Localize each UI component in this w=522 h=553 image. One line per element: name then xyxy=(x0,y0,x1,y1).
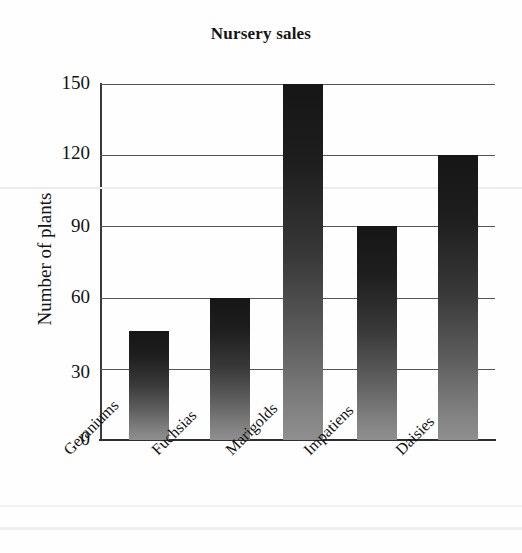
y-tick-label-30: 30 xyxy=(28,361,90,383)
chart-figure: Nursery sales Number of plants 150 120 9… xyxy=(0,0,522,553)
y-tick-label-60: 60 xyxy=(28,286,90,308)
bar-daisies[interactable] xyxy=(438,155,478,440)
bar-fuchsias[interactable] xyxy=(210,298,250,440)
scan-artifact xyxy=(0,505,522,507)
bar-marigolds[interactable] xyxy=(283,84,323,440)
bar-impatiens[interactable] xyxy=(357,226,397,440)
bar-geraniums[interactable] xyxy=(129,331,169,440)
y-tick-label-150: 150 xyxy=(28,72,90,94)
plot-area xyxy=(100,84,495,440)
chart-title: Nursery sales xyxy=(0,24,522,44)
y-tick-label-120: 120 xyxy=(28,142,90,164)
scan-artifact xyxy=(0,527,522,530)
y-tick-label-90: 90 xyxy=(28,215,90,237)
